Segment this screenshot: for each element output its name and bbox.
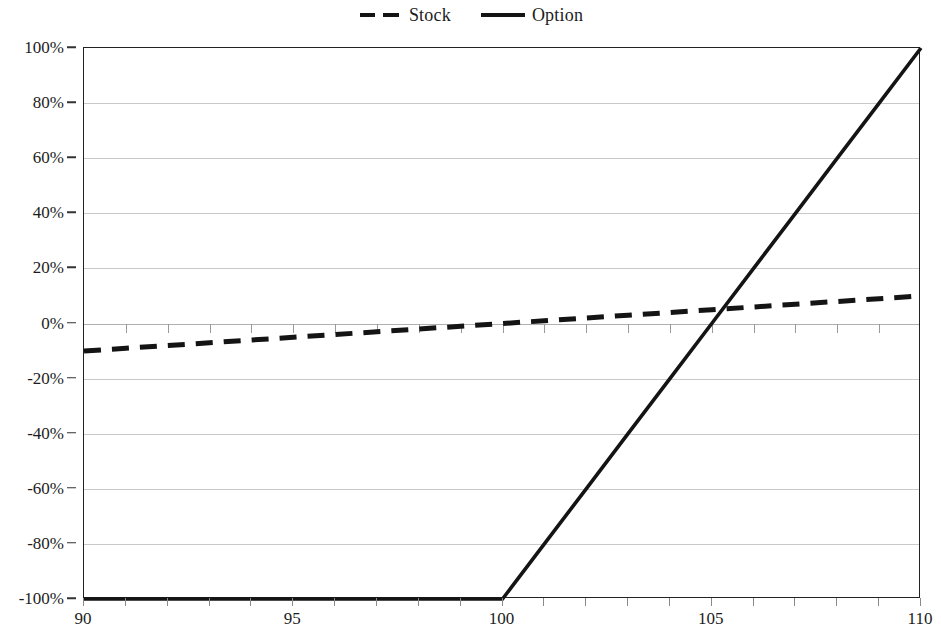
x-minor-tick xyxy=(585,598,586,606)
y-tick-label: 100% xyxy=(24,39,64,56)
x-minor-tick xyxy=(627,598,628,606)
x-minor-tick xyxy=(209,598,210,606)
x-minor-tick xyxy=(836,598,837,606)
x-minor-tick xyxy=(418,598,419,606)
x-tick-label: 90 xyxy=(75,610,92,627)
y-tick-mark xyxy=(67,377,76,379)
legend-label-option: Option xyxy=(532,6,583,24)
y-axis: 100%80%60%40%20%0%-20%-40%-60%-80%-100% xyxy=(0,47,76,598)
legend-entry-stock: Stock xyxy=(358,6,451,24)
y-tick-mark xyxy=(67,487,76,489)
y-tick-label: -80% xyxy=(27,534,64,551)
y-tick-label: 20% xyxy=(33,259,64,276)
payoff-chart: Stock Option 100%80%60%40%20%0%-20%-40%-… xyxy=(0,0,941,638)
y-tick-mark xyxy=(67,156,76,158)
legend-label-stock: Stock xyxy=(409,6,451,24)
x-tick-label: 105 xyxy=(698,610,724,627)
x-minor-tick xyxy=(711,598,712,606)
plot-area xyxy=(83,47,920,598)
y-tick-mark xyxy=(67,101,76,103)
x-minor-tick xyxy=(250,598,251,606)
y-tick-mark xyxy=(67,597,76,599)
y-tick-label: -20% xyxy=(27,369,64,386)
y-tick-label: -100% xyxy=(19,590,64,607)
x-minor-tick xyxy=(920,598,921,606)
dashed-line-marker-icon xyxy=(358,8,402,22)
x-minor-tick xyxy=(794,598,795,606)
y-tick-mark xyxy=(67,46,76,48)
chart-legend: Stock Option xyxy=(0,0,941,30)
x-minor-tick xyxy=(125,598,126,606)
y-tick-label: -40% xyxy=(27,424,64,441)
y-tick-label: 40% xyxy=(33,204,64,221)
y-tick-label: 0% xyxy=(41,314,64,331)
y-tick-mark xyxy=(67,542,76,544)
x-tick-label: 110 xyxy=(908,610,933,627)
x-minor-tick xyxy=(878,598,879,606)
y-tick-mark xyxy=(67,432,76,434)
y-tick-mark xyxy=(67,212,76,214)
series-line-stock xyxy=(84,296,921,351)
x-minor-tick xyxy=(292,598,293,606)
x-tick-label: 100 xyxy=(489,610,515,627)
y-tick-label: 60% xyxy=(33,149,64,166)
solid-line-marker-icon xyxy=(481,8,525,22)
x-minor-tick xyxy=(460,598,461,606)
y-tick-mark xyxy=(67,267,76,269)
series-line-option xyxy=(84,48,921,599)
x-tick-label: 95 xyxy=(284,610,301,627)
series-lines xyxy=(84,48,921,599)
x-minor-tick xyxy=(502,598,503,606)
y-tick-mark xyxy=(67,322,76,324)
x-minor-tick xyxy=(753,598,754,606)
x-minor-tick xyxy=(334,598,335,606)
x-minor-tick xyxy=(543,598,544,606)
legend-entry-option: Option xyxy=(481,6,583,24)
x-minor-tick xyxy=(376,598,377,606)
y-tick-label: -60% xyxy=(27,479,64,496)
x-minor-tick xyxy=(83,598,84,606)
x-minor-tick xyxy=(167,598,168,606)
x-axis-minor-ticks xyxy=(83,598,920,607)
y-tick-label: 80% xyxy=(33,94,64,111)
x-axis: 9095100105110 xyxy=(83,598,920,638)
x-minor-tick xyxy=(669,598,670,606)
